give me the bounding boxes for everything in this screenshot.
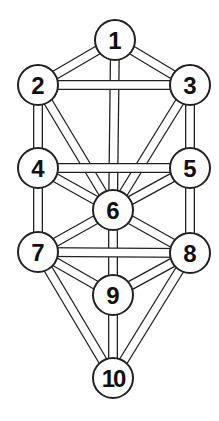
node-label: 1 <box>108 27 121 54</box>
node-label: 10 <box>102 365 126 392</box>
node-label: 5 <box>183 155 196 182</box>
node-9: 9 <box>93 275 133 315</box>
node-3: 3 <box>170 65 210 105</box>
node-label: 2 <box>31 72 44 99</box>
node-label: 4 <box>31 155 45 182</box>
path-7-8 <box>38 252 190 253</box>
node-label: 7 <box>31 239 44 266</box>
node-10: 10 <box>93 358 133 398</box>
node-5: 5 <box>170 148 210 188</box>
node-label: 6 <box>106 197 119 224</box>
node-8: 8 <box>170 233 210 273</box>
tree-of-life-diagram: 12345678910 <box>0 0 219 421</box>
node-2: 2 <box>18 65 58 105</box>
path-1-6 <box>113 40 115 210</box>
node-7: 7 <box>18 232 58 272</box>
node-6: 6 <box>93 190 133 230</box>
node-label: 8 <box>183 240 196 267</box>
node-1: 1 <box>95 20 135 60</box>
node-4: 4 <box>18 148 58 188</box>
node-label: 3 <box>183 72 196 99</box>
node-label: 9 <box>106 282 119 309</box>
